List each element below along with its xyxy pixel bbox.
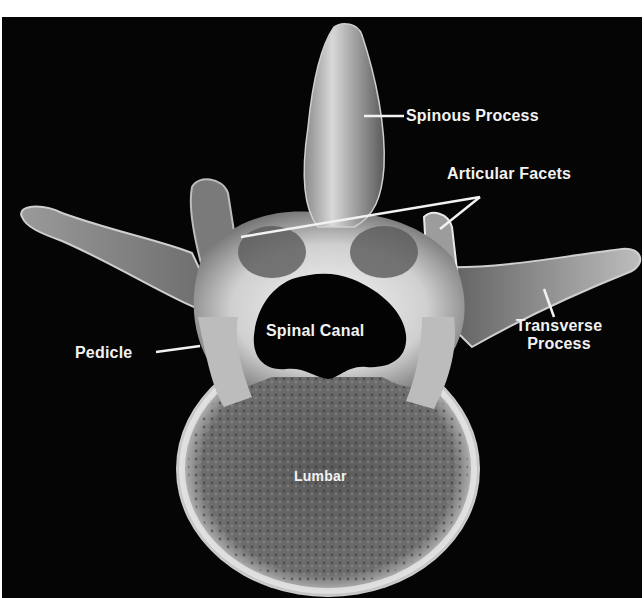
vertebra-xray-illustration <box>2 17 642 598</box>
spinous-process <box>304 24 384 227</box>
pedicle-leader <box>156 346 200 352</box>
label-articular-facets: Articular Facets <box>447 165 571 183</box>
label-spinal-canal: Spinal Canal <box>266 322 364 340</box>
label-transverse-line2: Process <box>514 335 604 353</box>
xray-image-frame: Spinous Process Articular Facets Transve… <box>2 17 642 598</box>
label-spinous-process: Spinous Process <box>406 107 539 125</box>
label-transverse-process: Transverse Process <box>514 317 604 353</box>
label-lumbar: Lumbar <box>294 467 347 485</box>
label-pedicle: Pedicle <box>75 344 132 362</box>
label-transverse-line1: Transverse <box>514 317 604 335</box>
